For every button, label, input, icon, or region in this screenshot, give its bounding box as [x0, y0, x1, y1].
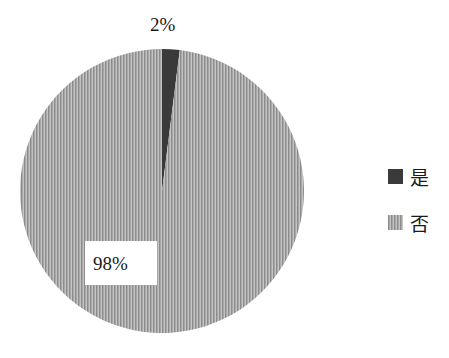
legend-swatch-yes — [388, 169, 403, 184]
slice-label-no: 98% — [93, 253, 128, 275]
legend-label-no: 否 — [410, 209, 429, 236]
legend-item-yes: 是 — [388, 165, 429, 187]
legend: 是 否 — [388, 165, 429, 257]
legend-label-yes: 是 — [410, 163, 429, 190]
legend-item-no: 否 — [388, 211, 429, 233]
slice-label-yes: 2% — [150, 14, 175, 36]
pie-chart — [0, 0, 449, 358]
legend-swatch-no — [388, 215, 403, 230]
slice-label-no-box: 98% — [85, 241, 157, 285]
